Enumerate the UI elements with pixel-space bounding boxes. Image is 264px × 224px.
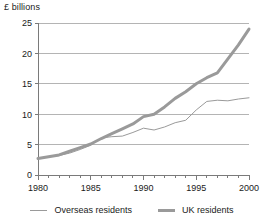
y-tick-label: 10 [22,110,32,120]
x-tick-label: 1990 [133,183,153,193]
y-tick-labels: 0510152025 [22,18,32,180]
x-axis [38,175,249,180]
series-line-overseas-residents [38,98,249,158]
legend-label-uk-residents: UK residents [182,205,234,215]
x-tick-label: 1995 [186,183,206,193]
line-chart: 0510152025 19801985199019952000 [0,0,264,200]
x-tick-label: 1980 [28,183,48,193]
y-axis [35,23,38,175]
y-tick-label: 25 [22,18,32,28]
chart-page: £ billions 0510152025 198019851990199520… [0,0,264,224]
y-tick-label: 15 [22,79,32,89]
chart-legend: Overseas residents UK residents [0,200,264,220]
x-tick-label: 2000 [239,183,259,193]
legend-swatch-overseas-residents [30,210,47,211]
legend-entry-uk-residents: UK residents [158,205,234,215]
gridlines [38,23,249,145]
y-tick-label: 20 [22,49,32,59]
series-line-uk-residents [38,29,249,159]
data-series [38,29,249,159]
legend-swatch-uk-residents [158,209,175,212]
y-tick-label: 5 [27,140,32,150]
legend-entry-overseas-residents: Overseas residents [30,205,132,215]
legend-label-overseas-residents: Overseas residents [54,205,132,215]
x-tick-label: 1985 [81,183,101,193]
y-tick-label: 0 [27,170,32,180]
x-tick-labels: 19801985199019952000 [28,183,259,193]
